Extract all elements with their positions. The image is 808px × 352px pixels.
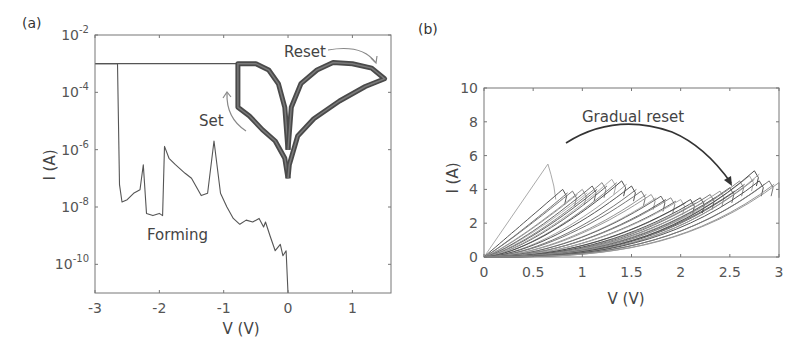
panel-b-ylabel: I (A) bbox=[444, 162, 462, 193]
reset-arrow bbox=[328, 49, 375, 63]
x-tick-label: -2 bbox=[152, 300, 166, 316]
y-tick-label: 10-2 bbox=[61, 24, 89, 43]
panel-a-label: (a) bbox=[22, 15, 42, 31]
y-tick-label: 4 bbox=[469, 181, 478, 197]
annotation-set: Set bbox=[199, 112, 224, 130]
y-tick-label: 8 bbox=[469, 114, 478, 130]
x-tick-label: 2 bbox=[676, 264, 685, 280]
panel-b-label: (b) bbox=[418, 21, 438, 37]
x-tick-label: 0 bbox=[284, 300, 293, 316]
y-tick-label: 0 bbox=[469, 249, 478, 265]
annotation-reset: Reset bbox=[284, 43, 326, 61]
sweep-curve bbox=[484, 181, 773, 257]
reset-arrowhead bbox=[371, 56, 377, 63]
x-tick-label: 0 bbox=[480, 264, 489, 280]
x-tick-label: -3 bbox=[88, 300, 102, 316]
panel-a-xlabel: V (V) bbox=[223, 320, 260, 338]
x-tick-label: 1.5 bbox=[620, 264, 642, 280]
x-tick-label: 2.5 bbox=[719, 264, 741, 280]
x-tick-label: 0.5 bbox=[522, 264, 544, 280]
sweep-curve bbox=[484, 189, 597, 257]
y-tick-label: 2 bbox=[469, 215, 478, 231]
annotation-gradual-reset: Gradual reset bbox=[582, 108, 684, 126]
panel-a-ylabel: I (A) bbox=[41, 149, 59, 180]
figure: (a) -3-2-10110-210-410-610-810-10 V (V) … bbox=[0, 0, 808, 352]
y-tick-label: 10-6 bbox=[61, 139, 89, 158]
x-tick-label: 3 bbox=[775, 264, 784, 280]
x-tick-label: 1 bbox=[578, 264, 587, 280]
y-tick-label: 10-4 bbox=[61, 81, 89, 100]
y-tick-label: 10 bbox=[460, 80, 478, 96]
panel-a-ticks: -3-2-10110-210-410-610-810-10 bbox=[55, 24, 391, 316]
y-tick-label: 10-8 bbox=[61, 196, 89, 215]
y-tick-label: 10-10 bbox=[55, 253, 89, 272]
panel-a-curves bbox=[95, 63, 385, 294]
x-tick-label: -1 bbox=[217, 300, 231, 316]
panel-b-xlabel: V (V) bbox=[608, 290, 645, 308]
series-set bbox=[238, 64, 288, 179]
annotation-forming: Forming bbox=[147, 226, 208, 244]
series-set-overlay bbox=[238, 64, 288, 179]
panel-a: (a) -3-2-10110-210-410-610-810-10 V (V) … bbox=[22, 15, 391, 338]
gradual-reset-arrow bbox=[566, 124, 731, 183]
panel-a-axes-box bbox=[95, 35, 391, 293]
y-tick-label: 6 bbox=[469, 148, 478, 164]
series-reset bbox=[288, 63, 385, 179]
panel-b-curves bbox=[484, 164, 779, 257]
series-forming bbox=[95, 64, 288, 293]
x-tick-label: 1 bbox=[348, 300, 357, 316]
panel-b: (b) 00.511.522.530246810 V (V) I (A) Gra… bbox=[418, 21, 783, 308]
